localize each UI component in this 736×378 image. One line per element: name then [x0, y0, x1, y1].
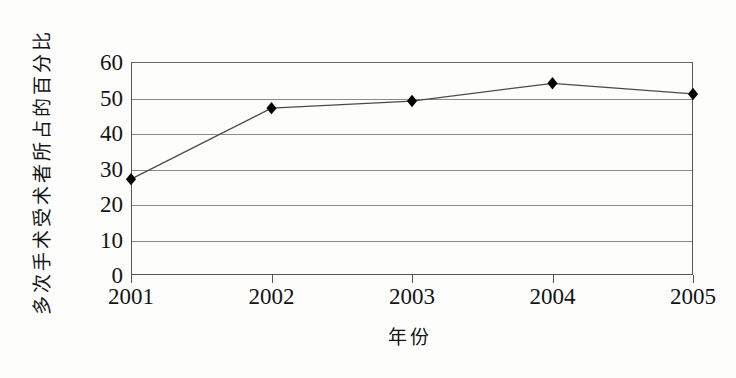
x-tick-label: 2005	[670, 283, 716, 311]
x-axis-title: 年份	[0, 322, 736, 349]
chart-page: 多次手术受术者所占的百分比 0102030405060 200120022003…	[0, 0, 736, 378]
x-axis-title-label: 年份	[388, 322, 432, 349]
data-point-marker	[407, 95, 417, 107]
y-axis-title-label: 多次手术受术者所占的百分比	[27, 28, 54, 314]
y-axis-tick-labels: 0102030405060	[73, 62, 123, 275]
y-tick-label: 40	[77, 122, 123, 145]
data-point-marker	[547, 77, 557, 89]
x-tick	[553, 275, 554, 283]
x-tick-label: 2004	[530, 283, 576, 311]
data-point-marker	[126, 173, 136, 185]
y-axis-title: 多次手术受术者所占的百分比	[18, 6, 62, 336]
y-tick-label: 60	[77, 51, 123, 74]
x-tick	[272, 275, 273, 283]
data-point-marker	[688, 88, 698, 100]
data-series-layer	[131, 62, 693, 275]
y-tick-label: 30	[77, 157, 123, 180]
data-point-marker	[266, 102, 276, 114]
x-axis-tick-labels: 20012002200320042005	[131, 283, 693, 313]
x-tick-label: 2002	[249, 283, 295, 311]
x-tick	[131, 275, 132, 283]
x-tick	[412, 275, 413, 283]
x-tick	[693, 275, 694, 283]
y-tick-label: 50	[77, 86, 123, 109]
y-tick-label: 20	[77, 193, 123, 216]
y-tick-label: 10	[77, 228, 123, 251]
x-tick-label: 2001	[108, 283, 154, 311]
x-tick-label: 2003	[389, 283, 435, 311]
